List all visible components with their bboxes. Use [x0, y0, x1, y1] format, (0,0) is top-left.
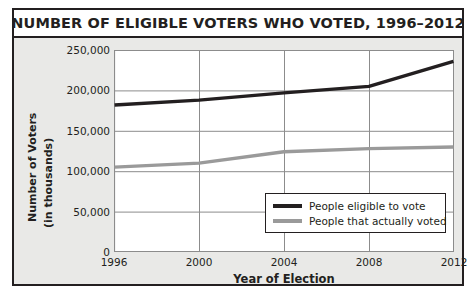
- y-tick-250000: 250,000: [58, 44, 110, 56]
- x-tick-2000: 2000: [176, 256, 222, 268]
- y-tick-100000: 100,000: [58, 165, 110, 177]
- x-tick-2004: 2004: [261, 256, 307, 268]
- chart-figure: NUMBER OF ELIGIBLE VOTERS WHO VOTED, 199…: [12, 8, 464, 286]
- x-tick-2008: 2008: [346, 256, 392, 268]
- x-axis-tick-labels: 1996 2000 2004 2008 2012: [114, 256, 454, 272]
- y-axis-label: Number of Voters (in thousands): [12, 72, 56, 232]
- legend-item-voted: People that actually voted: [273, 213, 439, 228]
- x-tick-2012: 2012: [431, 256, 476, 268]
- legend-label-eligible: People eligible to vote: [309, 200, 426, 212]
- legend-item-eligible: People eligible to vote: [273, 198, 439, 213]
- legend-swatch-eligible: [273, 204, 302, 208]
- chart-title-band: NUMBER OF ELIGIBLE VOTERS WHO VOTED, 199…: [14, 10, 462, 38]
- legend-label-voted: People that actually voted: [309, 215, 447, 227]
- chart-title: NUMBER OF ELIGIBLE VOTERS WHO VOTED, 199…: [11, 15, 464, 31]
- chart-legend: People eligible to vote People that actu…: [265, 193, 446, 233]
- plot-region: Number of Voters (in thousands) 250,000 …: [14, 38, 462, 284]
- y-tick-150000: 150,000: [58, 125, 110, 137]
- y-axis-label-line-1: Number of Voters: [26, 113, 39, 222]
- y-tick-50000: 50,000: [58, 206, 110, 218]
- y-axis-tick-labels: 250,000 200,000 150,000 100,000 50,000 0: [54, 50, 110, 252]
- legend-swatch-voted: [273, 219, 302, 223]
- y-tick-200000: 200,000: [58, 84, 110, 96]
- x-axis-label: Year of Election: [114, 272, 454, 286]
- x-tick-1996: 1996: [91, 256, 137, 268]
